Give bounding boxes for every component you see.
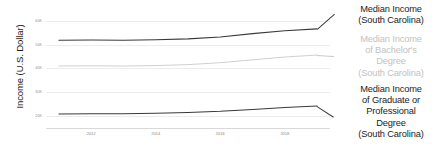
legend-label-line: Degree <box>334 56 448 67</box>
legend-label-line: Median Income <box>334 84 448 95</box>
x-axis-line <box>46 128 330 129</box>
line-chart: Income (U.S. Dollar) 60K50K40K30K20K 201… <box>0 0 448 152</box>
legend-label-line: (South Carolina) <box>334 15 448 26</box>
legend-label-line: (South Carolina) <box>334 129 448 140</box>
series-line <box>59 106 317 114</box>
y-axis-tick-label: 60K <box>35 19 42 23</box>
legend-label-line: of Graduate or <box>334 95 448 106</box>
legend-label-line: Median Income <box>334 34 448 45</box>
x-axis-tick-labels: 2012201420162018 <box>46 130 330 144</box>
y-axis-tick-label: 40K <box>35 66 42 70</box>
legend-entry-graduate-degree: Median Income of Graduate or Professiona… <box>334 84 448 140</box>
x-axis-tick-label: 2014 <box>151 132 160 136</box>
legend-label-line: Professional <box>334 106 448 117</box>
legend: Median Income (South Carolina) Median In… <box>334 0 448 152</box>
legend-label-line: of Bachelor's <box>334 45 448 56</box>
legend-entry-median-income: Median Income (South Carolina) <box>334 4 448 26</box>
y-axis-tick-label: 50K <box>35 43 42 47</box>
series-line <box>59 55 317 66</box>
legend-label-line: (South Carolina) <box>334 68 448 79</box>
legend-entry-bachelors-degree: Median Income of Bachelor's Degree (Sout… <box>334 34 448 79</box>
legend-label-line: Median Income <box>334 4 448 15</box>
plot-area <box>46 16 330 128</box>
x-axis-tick-label: 2012 <box>87 132 96 136</box>
y-axis-tick-label: 30K <box>35 90 42 94</box>
series-container <box>46 16 330 128</box>
y-axis-tick-labels: 60K50K40K30K20K <box>0 16 44 128</box>
x-axis-tick-label: 2016 <box>216 132 225 136</box>
series-line <box>59 29 317 40</box>
y-axis-tick-label: 20K <box>35 114 42 118</box>
legend-label-line: Degree <box>334 118 448 129</box>
x-axis-tick-label: 2018 <box>280 132 289 136</box>
